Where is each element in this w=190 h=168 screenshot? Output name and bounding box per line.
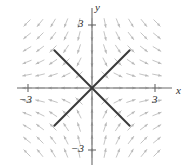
field-arrow-head (77, 50, 80, 53)
field-arrow-head (104, 149, 107, 152)
field-arrow-head (158, 74, 161, 77)
x-tick-label-positive-3: 3 (152, 94, 158, 105)
field-arrow-head (132, 99, 135, 102)
field-arrow-head (104, 24, 107, 27)
field-arrow-head (49, 74, 52, 77)
y-tick-label-negative-3: −3 (71, 143, 84, 154)
field-arrow-head (104, 123, 107, 126)
x-axis-label: x (176, 85, 181, 96)
direction-field-figure: y x 3 −3 −3 3 (0, 0, 190, 168)
field-arrow-head (23, 74, 26, 77)
field-arrow-head (104, 50, 107, 53)
field-arrow-head (77, 123, 80, 126)
phase-portrait-plot (0, 0, 190, 168)
field-arrow-head (158, 99, 161, 102)
x-tick-label-negative-3: −3 (19, 94, 32, 105)
field-arrow-head (49, 99, 52, 102)
y-tick-label-positive-3: 3 (78, 18, 84, 29)
field-arrow-head (132, 74, 135, 77)
y-axis-label: y (95, 2, 100, 13)
